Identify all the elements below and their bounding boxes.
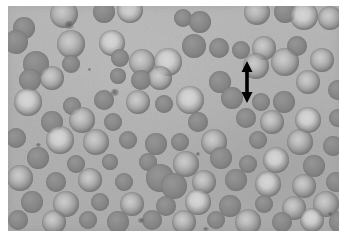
figure-page [0,0,353,240]
platelet-artifact [36,143,41,147]
platelet-debris-layer [8,6,339,231]
blood-smear-micrograph [8,6,339,231]
platelet-artifact [65,21,74,29]
platelet-artifact [138,218,145,223]
platelet-artifact [88,68,91,71]
double-headed-arrow-annotation [239,61,255,103]
platelet-artifact [111,89,119,96]
platelet-artifact [328,212,333,216]
platelet-artifact [203,227,209,231]
platelet-artifact [196,152,200,156]
